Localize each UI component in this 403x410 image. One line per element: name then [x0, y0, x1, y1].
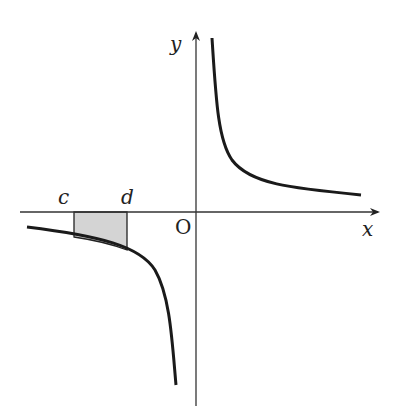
curve-left-branch	[27, 227, 176, 385]
d-label: d	[121, 185, 134, 209]
hyperbola-diagram: y x O c d	[0, 0, 403, 410]
c-label: c	[58, 185, 69, 209]
x-axis-label: x	[362, 217, 373, 241]
origin-label: O	[175, 215, 191, 239]
curve-right-branch	[212, 38, 361, 195]
y-axis-label: y	[169, 32, 182, 56]
